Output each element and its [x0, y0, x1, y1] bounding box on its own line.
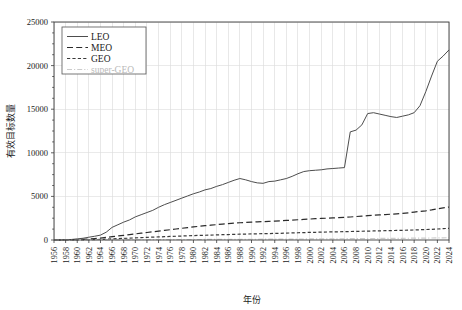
- x-tick-label: 1958: [62, 247, 71, 263]
- chart-legend: LEOMEOGEOsuper-GEO: [62, 27, 146, 75]
- x-tick-label: 2010: [364, 247, 373, 263]
- x-tick-label: 1972: [143, 247, 152, 263]
- x-tick-label: 1980: [189, 247, 198, 263]
- x-tick-label: 1956: [50, 247, 59, 263]
- x-tick-label: 1964: [96, 247, 105, 263]
- legend-label-meo: MEO: [91, 43, 112, 53]
- x-tick-label: 2004: [329, 247, 338, 263]
- y-tick-label: 0: [44, 235, 48, 245]
- x-tick-label: 2006: [340, 247, 349, 263]
- y-tick-label: 5000: [31, 191, 48, 201]
- y-tick-label: 20000: [27, 61, 48, 71]
- legend-label-super-geo: super-GEO: [91, 65, 134, 75]
- y-tick-label: 10000: [27, 148, 48, 158]
- x-tick-label: 1994: [271, 247, 280, 263]
- x-tick-label: 1998: [294, 247, 303, 263]
- x-tick-label: 2002: [317, 247, 326, 263]
- x-tick-label: 1962: [85, 247, 94, 263]
- legend-label-geo: GEO: [91, 54, 111, 64]
- x-tick-label: 1992: [259, 247, 268, 263]
- y-tick-label: 15000: [27, 104, 48, 114]
- x-tick-label: 2020: [422, 247, 431, 263]
- x-tick-label: 1966: [108, 247, 117, 263]
- y-axis-title: 有效目标数量: [5, 104, 16, 158]
- x-tick-label: 1976: [166, 247, 175, 263]
- x-tick-label: 1978: [178, 247, 187, 263]
- x-axis-title: 年份: [243, 294, 261, 305]
- x-tick-label: 1990: [248, 247, 257, 263]
- x-tick-label: 2018: [410, 247, 419, 263]
- x-tick-label: 1986: [224, 247, 233, 263]
- x-tick-label: 1974: [155, 247, 164, 263]
- line-chart: 0500010000150002000025000 19561958196019…: [0, 0, 462, 310]
- x-tick-label: 2000: [306, 247, 315, 263]
- x-tick-label: 1960: [73, 247, 82, 263]
- x-tick-label: 1982: [201, 247, 210, 263]
- x-tick-label: 2022: [433, 247, 442, 263]
- x-tick-label: 2014: [387, 247, 396, 263]
- x-tick-label: 1984: [213, 247, 222, 263]
- x-tick-label: 2024: [445, 247, 454, 263]
- x-tick-label: 1968: [120, 247, 129, 263]
- legend-label-leo: LEO: [91, 32, 110, 42]
- x-tick-label: 1988: [236, 247, 245, 263]
- x-tick-label: 2012: [375, 247, 384, 263]
- x-tick-label: 2008: [352, 247, 361, 263]
- x-tick-label: 1996: [282, 247, 291, 263]
- y-tick-label: 25000: [27, 17, 48, 27]
- x-tick-label: 1970: [131, 247, 140, 263]
- x-tick-label: 2016: [399, 247, 408, 263]
- chart-container: 0500010000150002000025000 19561958196019…: [0, 0, 462, 310]
